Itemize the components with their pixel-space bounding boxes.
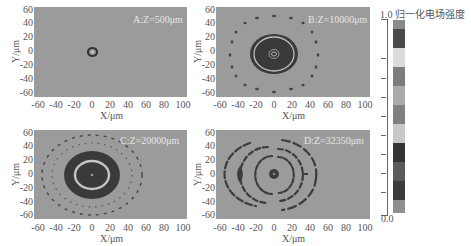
colorbar-tick xyxy=(381,135,386,136)
plot-area-b: B:Z=10000μm xyxy=(216,7,370,97)
ytick: -40 xyxy=(11,73,33,84)
panel-label-c: C:Z=20000μm xyxy=(120,135,179,146)
ytick: -60 xyxy=(11,209,33,220)
ytick: -60 xyxy=(193,209,215,220)
colorbar-band xyxy=(393,67,405,86)
y-axis-label-a: Y/μm xyxy=(10,40,21,63)
colorbar-band xyxy=(393,181,405,200)
colorbar-tick xyxy=(381,58,386,59)
ytick: 40 xyxy=(193,140,215,151)
colorbar-band xyxy=(393,124,405,143)
x-axis-label-a: X/μm xyxy=(100,110,123,121)
colorbar-band xyxy=(393,20,405,29)
colorbar-tick xyxy=(381,97,386,98)
panel-label-a: A:Z=500μm xyxy=(133,14,183,25)
y-axis-label-b: Y/μm xyxy=(192,40,203,63)
colorbar-band xyxy=(393,48,405,67)
colorbar-band xyxy=(393,29,405,48)
ytick: -40 xyxy=(193,196,215,207)
plot-area-d: D:Z=32350μm xyxy=(216,130,370,219)
colorbar-band xyxy=(393,105,405,124)
ytick: 40 xyxy=(11,140,33,151)
x-axis-label-b: X/μm xyxy=(282,110,305,121)
colorbar-tick xyxy=(381,154,386,155)
x-axis-label-d: X/μm xyxy=(282,233,305,244)
ytick: -40 xyxy=(193,73,215,84)
ytick: 60 xyxy=(193,127,215,138)
ytick: 40 xyxy=(11,17,33,28)
ytick: 60 xyxy=(11,4,33,15)
ytick: 60 xyxy=(193,4,215,15)
panel-label-b: B:Z=10000μm xyxy=(308,14,367,25)
colorbar-band xyxy=(393,162,405,181)
colorbar-tick xyxy=(381,173,386,174)
colorbar-tick xyxy=(381,78,386,79)
ytick: -60 xyxy=(193,87,215,98)
colorbar-axis xyxy=(381,19,388,216)
colorbar-title: 1.0 归一化电场强度 xyxy=(380,6,465,21)
xtick: 100 xyxy=(352,99,378,110)
xtick: 100 xyxy=(170,99,196,110)
y-axis-label-c: Y/μm xyxy=(10,163,21,186)
colorbar-band xyxy=(393,143,405,162)
colorbar-tick xyxy=(381,192,386,193)
x-axis-label-c: X/μm xyxy=(100,233,123,244)
xtick: 100 xyxy=(170,222,196,233)
colorbar-band xyxy=(393,86,405,105)
xtick: 100 xyxy=(352,222,378,233)
colorbar-gradient xyxy=(393,20,405,213)
ytick: 40 xyxy=(193,17,215,28)
ytick: 60 xyxy=(11,127,33,138)
colorbar-min-label: 0.0 xyxy=(381,213,394,224)
plot-area-c: C:Z=20000μm xyxy=(34,130,187,219)
ytick: -40 xyxy=(11,196,33,207)
panel-label-d: D:Z=32350μm xyxy=(304,135,364,146)
colorbar-tick xyxy=(381,116,386,117)
ytick: -60 xyxy=(11,87,33,98)
y-axis-label-d: Y/μm xyxy=(192,163,203,186)
colorbar-band xyxy=(393,200,405,213)
plot-area-a: A:Z=500μm xyxy=(34,7,187,97)
